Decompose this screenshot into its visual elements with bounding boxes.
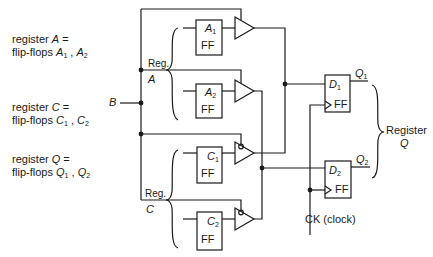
control-line-a1 [141,9,241,20]
control-line-a2 [141,70,241,83]
brace-reg-c [166,150,178,248]
bus-input-label: B [109,96,116,109]
control-line-c2 [141,200,241,210]
reg-a-name: A [148,73,155,86]
flipflop-a2-label: A2 [205,87,216,101]
reg-c-name: C [146,203,154,216]
buffer-a2 [235,80,254,102]
junction-dot [260,166,265,171]
flipflop-d1-label: D1 [329,79,341,93]
note-register-a: register A = flip-flops A1 , A2 [12,33,88,62]
flipflop-c2-type: FF [201,234,214,245]
output-q1-label: Q1 [355,68,367,82]
reg-c-label: Reg. [145,187,166,200]
buffer-c2 [235,208,254,230]
junction-dot [139,68,144,73]
junction-dot [139,101,144,106]
clock-label: CK (clock) [305,213,356,226]
flipflop-d1-type: FF [334,99,347,110]
register-q-label: Register [386,124,427,137]
buffer-c1 [235,142,254,164]
brace-reg-q [372,85,384,178]
flipflop-c1-label: C1 [207,151,219,165]
flipflop-c1-type: FF [201,168,214,179]
flipflop-d2-type: FF [335,184,348,195]
flipflop-c2-label: C2 [207,216,219,230]
junction-dot [308,188,313,193]
note-register-q: register Q = flip-flops Q1 , Q2 [12,153,90,182]
wire-a2-c2 [254,91,262,219]
flipflop-a2-type: FF [201,104,214,115]
junction-dot [283,82,288,87]
flipflop-a1-type: FF [201,40,214,51]
register-q-name: Q [400,137,409,150]
flipflop-a1-label: A1 [205,23,216,37]
brace-reg-a [166,28,178,120]
buffer-a1 [235,17,254,39]
reg-a-label: Reg. [148,57,169,70]
junction-dot [139,132,144,137]
note-register-c: register C = flip-flops C1 , C2 [12,101,89,130]
flipflop-d2-label: D2 [329,165,341,179]
output-q2-label: Q2 [356,154,368,168]
control-line-c1 [141,134,241,144]
